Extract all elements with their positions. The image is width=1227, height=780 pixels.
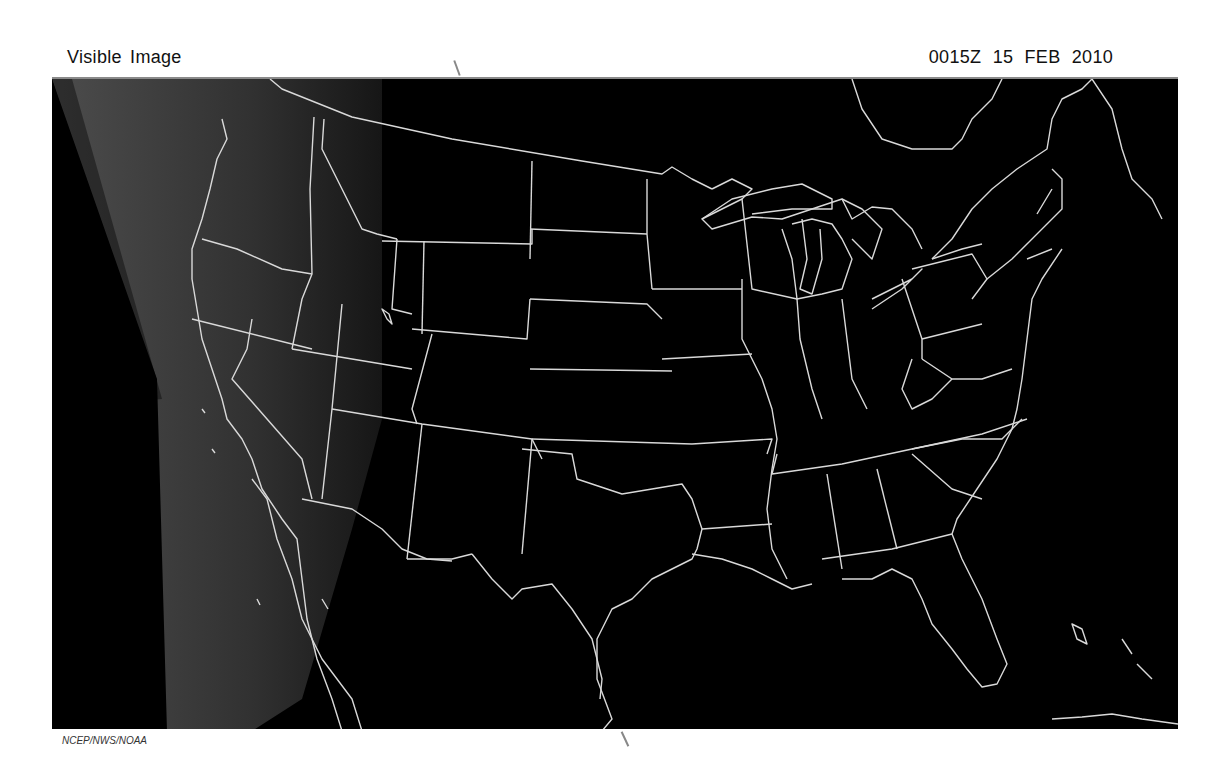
wy-sd xyxy=(422,241,424,334)
mn-border xyxy=(647,179,652,289)
nc-sc xyxy=(912,419,1022,449)
bahama-island-3 xyxy=(1137,664,1152,679)
texas xyxy=(522,449,702,729)
oh-pa xyxy=(902,279,922,359)
ut-co-line xyxy=(412,334,432,424)
ky-tn xyxy=(772,419,1027,474)
ar-la xyxy=(702,524,772,529)
lake-superior xyxy=(702,184,832,219)
border-canada-ne xyxy=(932,79,1092,259)
nd-sd xyxy=(530,229,647,234)
id-wy xyxy=(392,239,412,314)
ga-sc xyxy=(912,454,982,499)
valid-datetime: 0015Z 15 FEB 2010 xyxy=(929,47,1113,68)
ks-ok xyxy=(532,439,692,444)
lake-michigan xyxy=(800,219,822,294)
tx-rio-grande xyxy=(472,554,602,699)
atlantic-coast xyxy=(952,249,1062,534)
sd-ne xyxy=(530,299,662,319)
in-oh xyxy=(842,299,867,409)
cuba-coast xyxy=(1052,714,1178,724)
state-boundaries-map xyxy=(52,79,1178,729)
mississippi-river xyxy=(742,279,787,579)
ga-fl xyxy=(822,534,952,559)
satellite-map[interactable] xyxy=(52,77,1178,729)
wy-co-ne xyxy=(412,299,530,339)
maine-coast xyxy=(1092,79,1162,219)
pa-md xyxy=(922,324,982,339)
valid-time: 0015Z xyxy=(929,47,982,67)
wv-outline xyxy=(902,359,952,409)
mo-ar xyxy=(692,439,772,454)
border-canada-nw xyxy=(852,79,1002,149)
ms-al xyxy=(827,474,842,569)
product-title: Visible Image xyxy=(67,47,182,68)
valid-date: 15 FEB 2010 xyxy=(993,47,1113,67)
florida xyxy=(842,534,1007,687)
va-border xyxy=(922,359,1012,379)
nm-tx-east xyxy=(522,439,532,554)
bahama-island-2 xyxy=(1122,639,1132,654)
ne-lines xyxy=(1027,189,1052,259)
az-nm xyxy=(407,424,422,559)
mt-wy xyxy=(382,229,532,244)
al-ga xyxy=(877,469,897,549)
great-salt-lake xyxy=(382,309,392,324)
top-tick-mark xyxy=(453,60,460,76)
bottom-tick-mark xyxy=(621,731,630,746)
michigan-lower xyxy=(782,219,852,299)
new-england xyxy=(987,169,1062,279)
bahama-island-1 xyxy=(1072,624,1087,644)
data-credit: NCEP/NWS/NOAA xyxy=(62,735,147,746)
la-coast xyxy=(692,554,812,589)
ia-mo xyxy=(662,354,752,359)
il-in xyxy=(797,299,822,419)
ne-ks xyxy=(530,369,672,371)
pa-ny xyxy=(912,254,987,299)
lake-erie xyxy=(872,269,922,309)
